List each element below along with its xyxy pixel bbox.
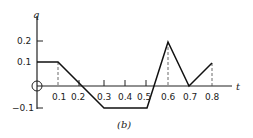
y-tick-label: 0.2 xyxy=(17,36,31,46)
x-tick-label: 0.5 xyxy=(137,92,151,102)
y-tick-label: −0.1 xyxy=(12,103,34,113)
y-tick-label: 0.1 xyxy=(17,57,31,67)
x-axis-label: t xyxy=(236,81,241,92)
x-tick-label: 0.1 xyxy=(52,92,66,102)
dashed-guides xyxy=(58,42,212,86)
chart: q t 0.2 0.1 −0.1 0.1 0.2 0.3 0.4 0.5 0.6… xyxy=(0,0,253,138)
x-ticks xyxy=(79,80,146,86)
x-tick-label: 0.6 xyxy=(161,92,176,102)
y-axis-label: q xyxy=(33,9,39,20)
figure-caption: (b) xyxy=(117,119,131,130)
x-tick-label: 0.4 xyxy=(118,92,133,102)
x-tick-label: 0.7 xyxy=(183,92,197,102)
x-tick-label: 0.3 xyxy=(97,92,111,102)
x-tick-label: 0.8 xyxy=(205,92,220,102)
x-tick-label: 0.2 xyxy=(71,92,85,102)
